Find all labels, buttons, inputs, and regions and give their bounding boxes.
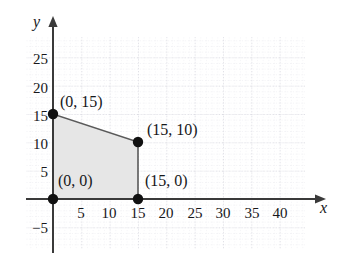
point-0-15 (48, 109, 58, 119)
y-axis-arrow (48, 16, 57, 27)
x-tick-30: 30 (209, 206, 237, 221)
vertex-label-15-10: (15, 10) (147, 122, 198, 138)
x-tick-15: 15 (124, 206, 152, 221)
vertex-label-15-0: (15, 0) (145, 173, 188, 189)
point-0-0 (48, 194, 58, 204)
vertex-label-0-15: (0, 15) (60, 94, 103, 110)
y-tick-10: 10 (12, 137, 48, 152)
y-tick-25: 25 (12, 52, 48, 67)
coordinate-plane-figure: y x 25 20 15 10 5 −5 5 10 15 20 25 30 35… (0, 0, 351, 254)
y-tick-minus-5: −5 (8, 221, 48, 236)
point-15-10 (133, 137, 143, 147)
x-tick-5: 5 (67, 206, 95, 221)
vertex-label-0-0: (0, 0) (58, 173, 93, 189)
x-tick-40: 40 (266, 206, 294, 221)
x-tick-35: 35 (238, 206, 266, 221)
x-axis-label: x (320, 200, 327, 216)
x-tick-10: 10 (95, 206, 123, 221)
x-tick-25: 25 (181, 206, 209, 221)
y-tick-15: 15 (12, 109, 48, 124)
y-axis-label: y (33, 14, 40, 30)
point-15-0 (133, 194, 143, 204)
x-tick-20: 20 (152, 206, 180, 221)
y-tick-5: 5 (12, 165, 48, 180)
y-tick-20: 20 (12, 81, 48, 96)
